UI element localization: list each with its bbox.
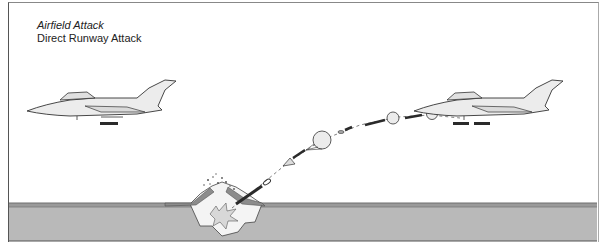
munitions (236, 109, 438, 205)
illustration (0, 0, 606, 249)
aircraft-right (414, 80, 563, 125)
runway-ground (9, 203, 597, 241)
aircraft-left (27, 80, 176, 125)
